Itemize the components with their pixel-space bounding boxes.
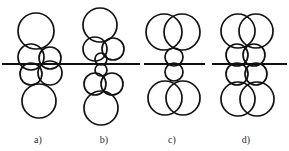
figure-board: a)b)c)d)	[0, 0, 289, 151]
circle-b-1	[83, 8, 117, 42]
panels-group	[18, 8, 274, 125]
panel-a	[18, 13, 62, 118]
circle-b-3	[102, 38, 124, 60]
caption-b: b)	[100, 134, 108, 146]
caption-c: c)	[168, 134, 176, 146]
circle-b-8	[84, 91, 118, 125]
caption-a: a)	[34, 134, 42, 146]
circle-a-3	[39, 47, 61, 69]
caption-d: d)	[242, 134, 250, 146]
circle-a-6	[22, 84, 56, 118]
captions-group: a)b)c)d)	[34, 134, 250, 146]
panel-d	[221, 14, 274, 116]
circle-c-6	[166, 81, 200, 115]
panel-b	[83, 8, 124, 125]
circle-d-8	[240, 82, 274, 116]
circle-c-5	[148, 81, 182, 115]
circle-chain-diagram: a)b)c)d)	[0, 0, 289, 151]
circle-d-1	[221, 14, 255, 48]
circle-d-7	[221, 82, 255, 116]
circle-a-1	[18, 13, 54, 49]
circle-d-2	[239, 14, 273, 48]
